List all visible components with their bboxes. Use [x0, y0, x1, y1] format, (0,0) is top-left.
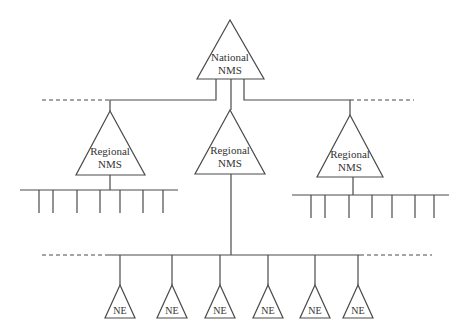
ne-label: NE — [261, 305, 274, 316]
ne-node: NE — [253, 255, 283, 318]
regional-right-drops — [311, 195, 434, 218]
ne-label: NE — [165, 305, 178, 316]
ne-label: NE — [113, 305, 126, 316]
regional-right-label-line1: Regional — [330, 148, 370, 160]
ne-label: NE — [351, 305, 364, 316]
national-nms-node: National NMS — [197, 20, 264, 79]
network-elements: NENENENENENE — [105, 255, 373, 318]
regional-nms-right: Regional NMS — [292, 115, 449, 218]
regional-right-label-line2: NMS — [338, 161, 362, 173]
nms-hierarchy-diagram: National NMS Regional NMS Regional NMS R… — [0, 0, 466, 336]
regional-left-label-line1: Regional — [90, 145, 130, 157]
ne-node: NE — [157, 255, 187, 318]
link-national-to-left-regional — [110, 79, 216, 111]
regional-center-label-line2: NMS — [218, 157, 242, 169]
ne-label: NE — [213, 305, 226, 316]
ne-label: NE — [308, 305, 321, 316]
ne-node: NE — [343, 255, 373, 318]
ne-node: NE — [205, 255, 235, 318]
regional-center-label-line1: Regional — [210, 144, 250, 156]
regional-nms-left: Regional NMS — [20, 111, 178, 213]
national-nms-label-line1: National — [211, 51, 249, 63]
national-nms-label-line2: NMS — [218, 64, 242, 76]
national-connections — [42, 79, 414, 115]
ne-node: NE — [105, 255, 135, 318]
regional-left-drops — [39, 190, 163, 213]
regional-left-label-line2: NMS — [98, 158, 122, 170]
ne-node: NE — [300, 255, 330, 318]
link-national-to-right-regional — [244, 79, 350, 115]
regional-nms-center: Regional NMS — [195, 110, 265, 255]
